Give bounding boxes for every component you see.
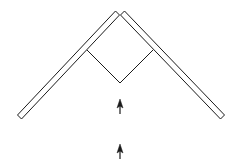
reflection-path — [87, 50, 153, 83]
arrow-up-icon — [117, 144, 123, 159]
arrow-up-icon — [117, 99, 123, 114]
roof-mirror-diagram — [0, 0, 240, 167]
right-mirror — [121, 11, 225, 119]
left-mirror — [18, 11, 120, 119]
